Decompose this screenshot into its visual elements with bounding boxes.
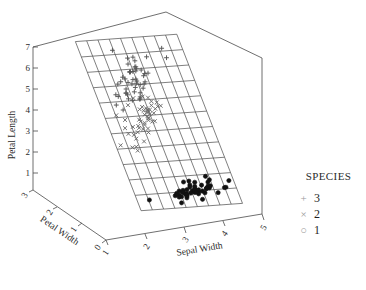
- legend: SPECIES + 3 × 2 ○ 1: [291, 170, 366, 239]
- mesh-line-v: [75, 34, 176, 41]
- mesh-line-v: [81, 50, 182, 57]
- x-axis-label: Sepal Width: [176, 240, 224, 258]
- data-point-species-3: [133, 85, 138, 90]
- data-point-species-2: [140, 105, 144, 109]
- data-point-species-2: [146, 127, 150, 131]
- data-point-species-3: [138, 90, 143, 95]
- z-axis-label: Petal Length: [7, 111, 17, 160]
- data-point-species-1: [206, 180, 210, 184]
- data-point-species-1: [193, 180, 197, 184]
- z-axis-tick-labels: 7 6 5 4 3 2 1: [26, 42, 31, 178]
- legend-title: SPECIES: [291, 170, 366, 182]
- data-point-species-2: [136, 149, 140, 153]
- legend-item-label: 1: [314, 224, 320, 236]
- data-point-species-3: [125, 56, 130, 61]
- frame-top-left: [33, 12, 166, 47]
- frame-top-right: [166, 12, 262, 58]
- data-point-species-1: [175, 191, 179, 195]
- z-tick-label: 1: [26, 168, 31, 178]
- plot-canvas: 7 6 5 4 3 2 1 Petal Length 3 2 1 0 Petal…: [0, 0, 366, 290]
- data-point-species-1: [194, 190, 198, 194]
- data-point-species-1: [179, 201, 183, 205]
- x-tick-label: 4: [219, 228, 230, 238]
- z-axis-ticks: [33, 47, 38, 173]
- data-point-species-1: [147, 198, 151, 202]
- data-point-species-2: [153, 119, 157, 123]
- data-point-species-1: [216, 191, 220, 195]
- legend-item-2[interactable]: × 2: [297, 207, 366, 221]
- x-tick-label: 1: [100, 248, 111, 257]
- data-point-species-2: [155, 100, 159, 104]
- z-tick-label: 4: [26, 105, 31, 115]
- data-point-species-3: [114, 103, 119, 108]
- plus-marker-icon: +: [297, 193, 310, 204]
- data-point-species-1: [200, 197, 204, 201]
- data-point-species-2: [142, 140, 146, 144]
- mesh-line-v: [141, 203, 242, 210]
- data-point-species-1: [181, 190, 185, 194]
- data-point-species-2: [130, 146, 134, 150]
- circle-marker-icon: ○: [297, 225, 310, 236]
- data-point-species-1: [187, 179, 191, 183]
- data-point-species-2: [159, 104, 163, 108]
- legend-items: + 3 × 2 ○ 1: [291, 191, 366, 237]
- legend-item-3[interactable]: + 3: [297, 191, 366, 205]
- data-point-species-2: [150, 103, 154, 107]
- data-point-species-2: [119, 143, 123, 147]
- cross-marker-icon: ×: [297, 209, 310, 220]
- data-point-species-3: [144, 54, 149, 59]
- data-point-species-2: [143, 121, 147, 125]
- chart-3d-scatter: 7 6 5 4 3 2 1 Petal Length 3 2 1 0 Petal…: [0, 0, 366, 290]
- data-point-species-2: [123, 118, 127, 122]
- data-point-species-1: [208, 184, 212, 188]
- z-tick-label: 3: [26, 126, 31, 136]
- data-point-species-2: [153, 107, 157, 111]
- data-point-species-1: [199, 183, 203, 187]
- data-point-species-3: [141, 86, 146, 91]
- data-point-species-1: [181, 180, 185, 184]
- data-point-species-1: [204, 186, 208, 190]
- data-point-species-2: [126, 103, 130, 107]
- regression-mesh-surface: [75, 34, 242, 210]
- mesh-line-v: [129, 173, 230, 180]
- data-point-species-1: [203, 191, 207, 195]
- z-tick-label: 2: [26, 147, 31, 157]
- x-tick-label: 3: [180, 234, 191, 244]
- axis-frame: [33, 12, 262, 240]
- data-point-species-2: [134, 145, 138, 149]
- legend-item-label: 2: [314, 208, 320, 220]
- legend-item-label: 3: [314, 192, 320, 204]
- z-tick-label: 6: [26, 63, 31, 73]
- data-point-species-1: [189, 191, 193, 195]
- data-point-species-1: [227, 178, 231, 182]
- z-tick-label: 7: [26, 42, 31, 52]
- z-tick-label: 5: [26, 84, 31, 94]
- data-point-species-1: [193, 184, 197, 188]
- mesh-line-v: [123, 157, 224, 164]
- data-point-species-3: [164, 55, 169, 60]
- data-point-species-3: [127, 70, 132, 75]
- data-point-species-1: [224, 185, 228, 189]
- data-point-species-1: [188, 185, 192, 189]
- data-point-species-2: [152, 111, 156, 115]
- data-point-species-1: [177, 195, 181, 199]
- data-point-species-2: [150, 99, 154, 103]
- data-points: [110, 46, 231, 205]
- data-point-species-2: [134, 137, 138, 141]
- data-point-species-2: [123, 126, 127, 130]
- legend-item-1[interactable]: ○ 1: [297, 223, 366, 237]
- x-tick-label: 5: [258, 222, 269, 232]
- data-point-species-3: [132, 89, 137, 94]
- data-point-species-1: [185, 192, 189, 196]
- y-axis-tick-labels: 3 2 1 0: [19, 190, 103, 252]
- data-point-species-2: [146, 96, 150, 100]
- data-point-species-1: [203, 174, 207, 178]
- x-tick-label: 2: [141, 242, 152, 251]
- data-point-species-3: [118, 79, 123, 84]
- y-tick-label: 3: [19, 190, 30, 200]
